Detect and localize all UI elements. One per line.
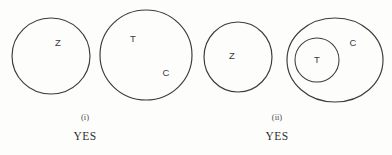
panel-ii-verdict: YES <box>266 130 289 142</box>
panel-i: Z T C (i) YES <box>12 10 192 142</box>
set-ellipse-c-panel-ii <box>287 18 383 102</box>
set-label-z-panel-i: Z <box>55 37 61 48</box>
set-label-c-panel-ii: C <box>349 37 356 48</box>
panel-ii-roman-numeral: (ii) <box>272 112 283 122</box>
panel-i-verdict: YES <box>74 130 97 142</box>
set-circle-z-panel-ii <box>204 22 272 92</box>
set-circle-z-panel-i <box>12 18 90 94</box>
set-circle-tc-panel-i <box>100 10 192 100</box>
panel-ii: Z C T (ii) YES <box>204 18 383 142</box>
set-label-t-panel-ii: T <box>314 54 320 65</box>
set-label-z-panel-ii: Z <box>229 50 235 61</box>
panel-i-roman-numeral: (i) <box>81 112 89 122</box>
venn-diagram-figure: Z T C (i) YES Z C T (ii) YES <box>0 0 392 155</box>
set-label-t-panel-i: T <box>130 33 136 44</box>
venn-diagram-canvas: Z T C (i) YES Z C T (ii) YES <box>0 0 392 155</box>
set-label-c-panel-i: C <box>162 67 169 78</box>
